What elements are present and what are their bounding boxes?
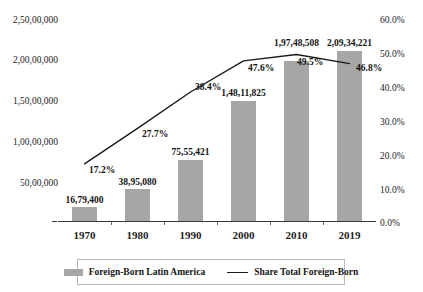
- bar-label-1990: 75,55,421: [172, 147, 210, 157]
- legend-bar-swatch-icon: [64, 269, 83, 276]
- y-left-tick-1000: 1,00,00,000: [13, 137, 58, 147]
- x-tick-1980: 1980: [111, 230, 164, 240]
- combo-chart: 2,50,00,000 2,00,00,000 1,50,00,000 1,00…: [0, 0, 423, 292]
- y-left-tick-2500: 2,50,00,000: [13, 15, 58, 25]
- axis-tick: [111, 222, 112, 225]
- share-line-path: [85, 55, 350, 164]
- y-right-tick-60: 60.0%: [380, 15, 405, 25]
- x-tick-2000: 2000: [217, 230, 270, 240]
- y-right-tick-50: 50.0%: [380, 49, 405, 59]
- legend-line-swatch-icon: [227, 272, 248, 273]
- bar-label-2019: 2,09,34,221: [327, 38, 372, 48]
- share-label-2010: 49.5%: [297, 57, 323, 67]
- y-right-tick-40: 40.0%: [380, 83, 405, 93]
- share-label-1990: 38.4%: [195, 82, 221, 92]
- chart-legend: Foreign-Born Latin America Share Total F…: [77, 259, 345, 285]
- plot-area: 16,79,400 38,95,080 75,55,421 1,48,11,82…: [58, 19, 376, 222]
- share-label-2019: 46.8%: [356, 63, 382, 73]
- y-right-tick-30: 30.0%: [380, 117, 405, 127]
- x-tick-1990: 1990: [164, 230, 217, 240]
- bar-label-1980: 38,95,080: [119, 177, 157, 187]
- bar-label-2000: 1,48,11,825: [221, 88, 266, 98]
- y-right-tick-10: 10.0%: [380, 185, 405, 195]
- share-label-2000: 47.6%: [248, 63, 274, 73]
- y-left-tick-1500: 1,50,00,000: [13, 96, 58, 106]
- value-axis-stub: [52, 221, 57, 222]
- legend-bar-label: Foreign-Born Latin America: [89, 267, 205, 277]
- y-left-tick-2000: 2,00,00,000: [13, 55, 58, 65]
- x-tick-2019: 2019: [323, 230, 376, 240]
- y-right-tick-0: 0.0%: [380, 218, 400, 228]
- x-tick-1970: 1970: [58, 230, 111, 240]
- x-tick-2010: 2010: [270, 230, 323, 240]
- y-right-tick-20: 20.0%: [380, 151, 405, 161]
- bar-label-2010: 1,97,48,508: [274, 38, 319, 48]
- y-left-tick-500: 50,00,000: [20, 178, 58, 188]
- legend-item-line[interactable]: Share Total Foreign-Born: [227, 267, 358, 277]
- axis-tick: [270, 222, 271, 225]
- share-line-series: [58, 19, 376, 222]
- share-label-1970: 17.2%: [89, 165, 115, 175]
- legend-item-bar[interactable]: Foreign-Born Latin America: [64, 267, 205, 277]
- axis-tick: [217, 222, 218, 225]
- axis-tick: [323, 222, 324, 225]
- legend-line-label: Share Total Foreign-Born: [254, 267, 358, 277]
- share-label-1980: 27.7%: [142, 129, 168, 139]
- bar-label-1970: 16,79,400: [66, 195, 104, 205]
- axis-tick: [164, 222, 165, 225]
